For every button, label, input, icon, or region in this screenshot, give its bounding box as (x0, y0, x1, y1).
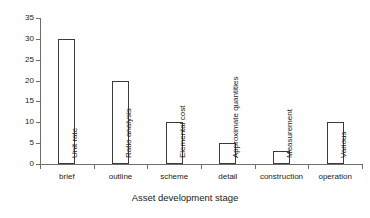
x-tick-mark (147, 164, 148, 169)
x-axis-title: Asset development stage (0, 192, 370, 203)
x-tick-mark (255, 164, 256, 169)
bar-series-label: Elemental cost (178, 106, 187, 158)
x-tick-mark (40, 164, 41, 169)
y-tick-label: 0 (2, 160, 34, 168)
y-tick-label: 25 (2, 56, 34, 64)
x-tick-mark (308, 164, 309, 169)
y-tick-label: 30 (2, 35, 34, 43)
y-tick-label-wrap: 20 (0, 77, 34, 85)
y-tick-label-wrap: 15 (0, 97, 34, 105)
y-tick-label: 35 (2, 14, 34, 22)
y-tick-label: 20 (2, 77, 34, 85)
x-tick-mark (94, 164, 95, 169)
bar-series-label: Approximate quantities (231, 77, 240, 158)
bar-series-label: Various (339, 131, 348, 158)
y-tick-mark (36, 122, 41, 123)
y-tick-label-wrap: 30 (0, 35, 34, 43)
y-tick-mark (36, 101, 41, 102)
y-tick-mark (36, 39, 41, 40)
y-tick-label: 5 (2, 139, 34, 147)
y-tick-label-wrap: 0 (0, 160, 34, 168)
y-tick-label-wrap: 35 (0, 14, 34, 22)
bar-series-label: Measurement (285, 109, 294, 158)
y-tick-mark (36, 81, 41, 82)
y-tick-mark (36, 60, 41, 61)
y-tick-mark (36, 143, 41, 144)
y-tick-label: 10 (2, 118, 34, 126)
y-tick-mark (36, 18, 41, 19)
x-tick-mark (362, 164, 363, 169)
y-tick-label-wrap: 25 (0, 56, 34, 64)
bar-series-label: Ratio analysis (124, 108, 133, 158)
bar-series-label: Unit rate (70, 128, 79, 158)
y-tick-label-wrap: 10 (0, 118, 34, 126)
y-tick-label: 15 (2, 97, 34, 105)
y-tick-label-wrap: 5 (0, 139, 34, 147)
x-category-label: operation (295, 172, 370, 181)
bar-chart: Accuracy/percentile range 05101520253035… (0, 0, 370, 218)
x-tick-mark (201, 164, 202, 169)
